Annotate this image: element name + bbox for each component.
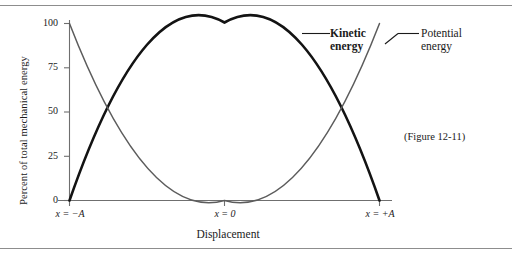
- x-tick-label-zero: x = 0: [194, 208, 256, 219]
- y-tick-label-50: 50: [32, 105, 58, 116]
- y-axis-title: Percent of total mechanical energy: [18, 56, 29, 205]
- x-tick-label-plus-a: x = +A: [349, 208, 411, 219]
- kinetic-energy-label-line1: Kinetic: [330, 27, 366, 39]
- potential-energy-label: Potential energy: [421, 27, 491, 52]
- y-tick-label-25: 25: [32, 150, 58, 161]
- kinetic-energy-label-line2: energy: [330, 40, 363, 52]
- figure-caption: (Figure 12-11): [404, 131, 465, 142]
- figure-container: 100 75 50 25 0 x = −A x = 0 x = +A Perce…: [0, 0, 512, 254]
- x-tick-label-minus-a: x = −A: [39, 208, 101, 219]
- potential-energy-label-line2: energy: [421, 40, 452, 52]
- potential-energy-label-line1: Potential: [421, 27, 462, 39]
- x-axis-title: Displacement: [180, 228, 276, 240]
- y-tick-label-75: 75: [32, 61, 58, 72]
- kinetic-energy-label: Kinetic energy: [330, 27, 394, 52]
- y-tick-label-0: 0: [32, 194, 58, 205]
- y-tick-label-100: 100: [32, 17, 58, 28]
